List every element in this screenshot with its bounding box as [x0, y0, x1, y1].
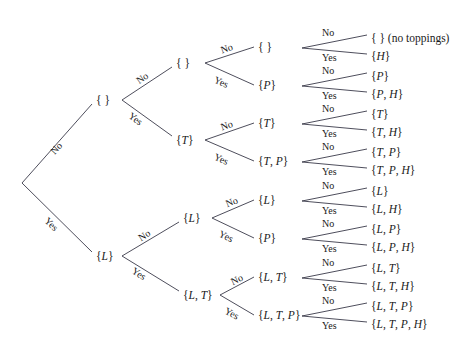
leaf-outcome: {P} [371, 70, 389, 82]
tree-node-p-2: {P} [258, 79, 276, 91]
edge-label-no: No [322, 103, 334, 114]
decision-tree-diagram: { }{L}{ }{T}{L}{L, T}{ }{P}{T}{T, P}{L}{… [0, 0, 470, 348]
tree-node-p-1: { } [258, 41, 272, 53]
edge-label-yes: Yes [322, 320, 337, 331]
tree-edge [302, 226, 367, 239]
edge-label-yes: Yes [322, 52, 337, 63]
leaf-outcome: {L} [371, 185, 388, 197]
tree-edge [122, 67, 172, 100]
edge-label-no: No [322, 295, 334, 306]
tree-node-n-no: { } [96, 94, 110, 106]
leaf-outcome: {L, T} [371, 262, 401, 274]
edge-label-yes: Yes [322, 243, 337, 254]
edge-label-yes: Yes [322, 90, 337, 101]
leaf-outcome: {L, T, H} [371, 280, 415, 292]
leaf-outcome: {H} [371, 50, 390, 62]
tree-edge [122, 222, 179, 256]
edge-label-yes: Yes [322, 128, 337, 139]
tree-node-p-8: {L, T, P} [258, 309, 300, 321]
edge-label-no: No [322, 27, 334, 38]
tree-node-n-ny: {T} [176, 134, 193, 146]
leaf-outcome: {T, P} [371, 146, 401, 158]
leaf-outcome: {L, P, H} [371, 241, 415, 253]
edge-label-no: No [322, 257, 334, 268]
tree-edge [302, 35, 367, 48]
edge-label-no: No [322, 141, 334, 152]
edge-label-no: No [322, 65, 334, 76]
tree-edge [302, 188, 367, 201]
tree-edge [302, 111, 367, 124]
edge-label-yes: Yes [322, 282, 337, 293]
tree-node-n-nn: { } [176, 57, 190, 69]
leaf-outcome: {P, H} [371, 88, 403, 100]
leaf-outcome: {L, T, P} [371, 300, 413, 312]
tree-edge [302, 265, 367, 278]
tree-node-n-yes: {L} [96, 250, 113, 262]
tree-node-p-7: {L, T} [258, 271, 288, 283]
tree-edge [302, 303, 367, 316]
tree-node-p-5: {L} [258, 194, 275, 206]
tree-node-p-3: {T} [258, 117, 275, 129]
edge-label-no: No [322, 180, 334, 191]
leaf-outcome: {T, H} [371, 126, 403, 138]
leaf-outcome: {T} [371, 108, 388, 120]
tree-node-p-6: {P} [258, 232, 276, 244]
tree-edge [302, 149, 367, 162]
edge-label-no: No [322, 218, 334, 229]
edge-label-yes: Yes [322, 205, 337, 216]
leaf-outcome: { } (no toppings) [371, 32, 449, 44]
leaf-outcome: {L, H} [371, 203, 403, 215]
leaf-outcome: {L, T, P, H} [371, 318, 427, 330]
tree-node-n-yn: {L} [183, 212, 200, 224]
leaf-outcome: {T, P, H} [371, 164, 415, 176]
tree-node-n-yy: {L, T} [183, 289, 213, 301]
edge-label-yes: Yes [322, 166, 337, 177]
leaf-outcome: {L, P} [371, 223, 401, 235]
tree-edge [302, 73, 367, 86]
tree-node-p-4: {T, P} [258, 155, 288, 167]
tree-edge [22, 183, 92, 252]
